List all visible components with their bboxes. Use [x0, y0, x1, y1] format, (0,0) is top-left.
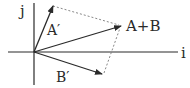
dashed-line-a-to-sum [53, 6, 119, 25]
vector-diagram: j i A′ A+B B′ [0, 0, 190, 88]
vector-a-plus-b-label: A+B [125, 17, 160, 35]
dashed-line-b-to-sum [104, 28, 120, 73]
vector-a-prime-label: A′ [46, 22, 60, 38]
y-axis-label: j [18, 2, 25, 20]
x-axis-label: i [181, 44, 186, 62]
vector-b-prime-label: B′ [56, 69, 69, 85]
